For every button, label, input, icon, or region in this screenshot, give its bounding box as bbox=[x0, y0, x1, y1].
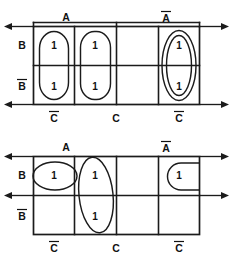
label-Bbar-row2-group: B bbox=[17, 210, 27, 222]
map-bottom-column-labels-top: A A bbox=[62, 141, 171, 154]
arrow-left-top-head bbox=[4, 23, 12, 30]
label-Cbar-bottom-right: C bbox=[175, 112, 183, 124]
label-C-bottom-middle: C bbox=[112, 112, 120, 124]
cell-r1c4: 1 bbox=[176, 170, 182, 181]
label-Cbar-bottom-right-group: C bbox=[174, 112, 184, 124]
label-Cbar-bottom-left: C bbox=[50, 112, 58, 124]
cell-r2c2: 1 bbox=[92, 211, 98, 222]
label-C-bottom-middle: C bbox=[112, 242, 120, 254]
arrow-right-bottom-head bbox=[221, 192, 229, 199]
cell-r1c1: 1 bbox=[51, 40, 57, 51]
label-B-row1: B bbox=[18, 169, 26, 181]
karnaugh-map-top: A A B B bbox=[0, 0, 238, 135]
map-top-grid bbox=[34, 23, 200, 105]
arrow-left-bottom-head bbox=[4, 192, 12, 199]
arrow-left-top-head bbox=[4, 153, 12, 160]
arrow-left-bottom-head bbox=[4, 101, 12, 108]
label-Cbar-bottom-left-group: C bbox=[49, 112, 59, 124]
label-Cbar-bottom-left-group: C bbox=[49, 242, 59, 254]
label-Cbar-bottom-right: C bbox=[175, 242, 183, 254]
arrow-right-top-head bbox=[221, 153, 229, 160]
map-top-column-labels-bottom: C C C bbox=[49, 112, 184, 124]
cell-r1c1: 1 bbox=[51, 170, 57, 181]
arrow-right-bottom-head bbox=[221, 101, 229, 108]
map-top-row-labels-left: B B bbox=[17, 39, 27, 92]
cell-r2c1: 1 bbox=[51, 81, 57, 92]
map-bottom-grid bbox=[34, 157, 200, 235]
label-B-row1: B bbox=[18, 39, 26, 51]
label-A-top: A bbox=[62, 141, 70, 153]
label-Bbar-row2: B bbox=[18, 210, 26, 222]
map-bottom-column-labels-bottom: C C C bbox=[49, 242, 184, 254]
arrow-right-top-head bbox=[221, 23, 229, 30]
karnaugh-map-bottom: A A B B C bbox=[0, 135, 238, 270]
group-dshape-col4 bbox=[168, 163, 201, 190]
cell-r2c4: 1 bbox=[176, 81, 182, 92]
cell-r1c2: 1 bbox=[92, 170, 98, 181]
label-Abar-top-group: A bbox=[161, 142, 171, 154]
label-Cbar-bottom-right-group: C bbox=[174, 242, 184, 254]
label-Bbar-row2: B bbox=[18, 80, 26, 92]
label-Bbar-row2-group: B bbox=[17, 80, 27, 92]
cell-r1c2: 1 bbox=[92, 40, 98, 51]
label-Cbar-bottom-left: C bbox=[50, 242, 58, 254]
cell-r1c4: 1 bbox=[176, 40, 182, 51]
cell-r2c2: 1 bbox=[92, 81, 98, 92]
label-A-top: A bbox=[62, 11, 70, 23]
label-Abar-top: A bbox=[162, 142, 170, 154]
diagram-page: A A B B bbox=[0, 0, 238, 270]
